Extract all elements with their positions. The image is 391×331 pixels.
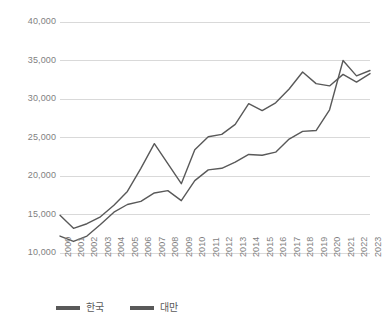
x-axis-tick-label: 2019 bbox=[320, 237, 329, 257]
legend-item-1[interactable]: 한국 bbox=[56, 300, 104, 316]
legend-label: 한국 bbox=[86, 303, 104, 313]
line-chart: 10,00015,00020,00025,00030,00035,00040,0… bbox=[0, 0, 391, 331]
legend-swatch-icon bbox=[56, 306, 80, 310]
x-axis-tick-label: 2011 bbox=[212, 237, 221, 257]
x-axis-tick-label: 2017 bbox=[293, 237, 302, 257]
x-axis-tick-label: 2022 bbox=[360, 237, 369, 257]
x-axis-tick-label: 2018 bbox=[306, 237, 315, 257]
legend-swatch-icon bbox=[130, 306, 154, 310]
x-axis-tick-label: 2015 bbox=[266, 237, 275, 257]
x-axis-tick-label: 2005 bbox=[131, 237, 140, 257]
x-axis-tick-labels: 2000200120022003200420052006200720082009… bbox=[0, 0, 391, 331]
x-axis-tick-label: 2001 bbox=[77, 237, 86, 257]
x-axis-tick-label: 2014 bbox=[252, 237, 261, 257]
x-axis-tick-label: 2020 bbox=[333, 237, 342, 257]
x-axis-tick-label: 2000 bbox=[64, 237, 73, 257]
x-axis-tick-label: 2008 bbox=[171, 237, 180, 257]
x-axis-tick-label: 2023 bbox=[374, 237, 383, 257]
x-axis-tick-label: 2009 bbox=[185, 237, 194, 257]
x-axis-tick-label: 2016 bbox=[279, 237, 288, 257]
x-axis-tick-label: 2010 bbox=[198, 237, 207, 257]
x-axis-tick-label: 2007 bbox=[158, 237, 167, 257]
x-axis-tick-label: 2003 bbox=[104, 237, 113, 257]
x-axis-tick-label: 2013 bbox=[239, 237, 248, 257]
x-axis-tick-label: 2006 bbox=[144, 237, 153, 257]
chart-legend: 한국대만 bbox=[56, 300, 178, 316]
x-axis-tick-label: 2021 bbox=[347, 237, 356, 257]
x-axis-tick-label: 2002 bbox=[90, 237, 99, 257]
legend-item-2[interactable]: 대만 bbox=[130, 300, 178, 316]
x-axis-tick-label: 2012 bbox=[225, 237, 234, 257]
legend-label: 대만 bbox=[160, 303, 178, 313]
x-axis-tick-label: 2004 bbox=[117, 237, 126, 257]
